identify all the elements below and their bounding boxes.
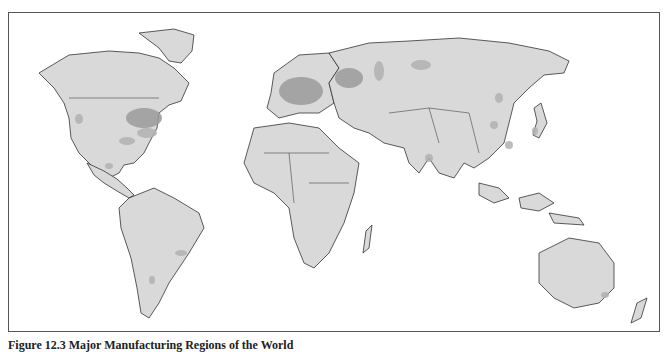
region-west-siberia xyxy=(411,60,431,70)
map-frame xyxy=(8,12,660,332)
region-se-australia xyxy=(601,292,609,298)
region-ural xyxy=(374,61,384,81)
region-south-china xyxy=(505,141,513,149)
southeast-asia-islands xyxy=(479,183,584,225)
region-buenos-aires xyxy=(149,276,155,284)
north-america xyxy=(39,51,189,178)
world-map xyxy=(9,13,660,332)
region-northeast-china xyxy=(495,93,503,103)
asia xyxy=(329,38,569,178)
madagascar xyxy=(363,225,372,253)
region-western-europe xyxy=(279,77,323,105)
region-mexico xyxy=(105,163,113,169)
region-us-southeast xyxy=(137,128,157,138)
australia xyxy=(539,238,614,308)
new-zealand xyxy=(631,298,647,323)
region-california xyxy=(75,114,83,124)
region-central-russia xyxy=(335,68,363,88)
region-india xyxy=(425,154,433,162)
south-america xyxy=(119,188,204,318)
region-brazil xyxy=(175,250,187,256)
region-us-northeast xyxy=(126,108,162,128)
region-east-china xyxy=(490,121,498,129)
region-gulf-coast xyxy=(119,137,135,145)
africa xyxy=(244,123,359,268)
figure-caption: Figure 12.3 Major Manufacturing Regions … xyxy=(8,338,293,352)
region-japan xyxy=(532,127,538,135)
